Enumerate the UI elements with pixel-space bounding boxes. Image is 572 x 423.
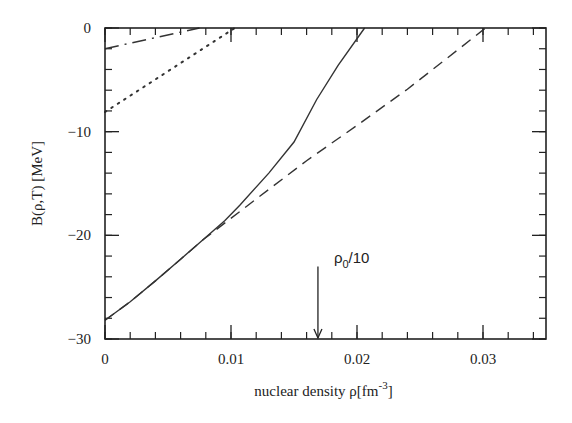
minor-ticks (105, 28, 546, 339)
series-layer (105, 28, 486, 320)
y-tick-label: −10 (68, 124, 91, 140)
series-solid (105, 28, 365, 320)
y-tick-labels: 0−10−20−30 (68, 20, 91, 347)
x-axis-title-main: nuclear density ρ[fm (254, 383, 378, 399)
annotation-rho: ρ (334, 249, 343, 266)
series-dashed (105, 28, 486, 320)
y-tick-label: −20 (68, 227, 91, 243)
series-dotted (105, 28, 235, 112)
x-axis-title-close: ] (388, 383, 393, 399)
annotation-rest: /10 (349, 249, 370, 266)
y-tick-label: 0 (84, 20, 92, 36)
x-tick-labels: 00.010.020.03 (101, 351, 496, 367)
plot-frame (105, 28, 546, 339)
x-tick-label: 0 (101, 351, 109, 367)
rho0-over-10-annotation: ρ0/10 (314, 249, 370, 338)
series-dash-dot (105, 28, 200, 49)
major-ticks (105, 28, 546, 339)
y-tick-label: −30 (68, 331, 91, 347)
x-tick-label: 0.01 (218, 351, 244, 367)
chart: 00.010.020.03 0−10−20−30 nuclear density… (0, 0, 572, 423)
x-axis-title: nuclear density ρ[fm-3] (254, 379, 392, 399)
x-tick-label: 0.02 (344, 351, 370, 367)
y-axis-title: B(ρ,T) [MeV] (29, 141, 46, 226)
x-tick-label: 0.03 (470, 351, 496, 367)
annotation-label: ρ0/10 (334, 249, 370, 270)
